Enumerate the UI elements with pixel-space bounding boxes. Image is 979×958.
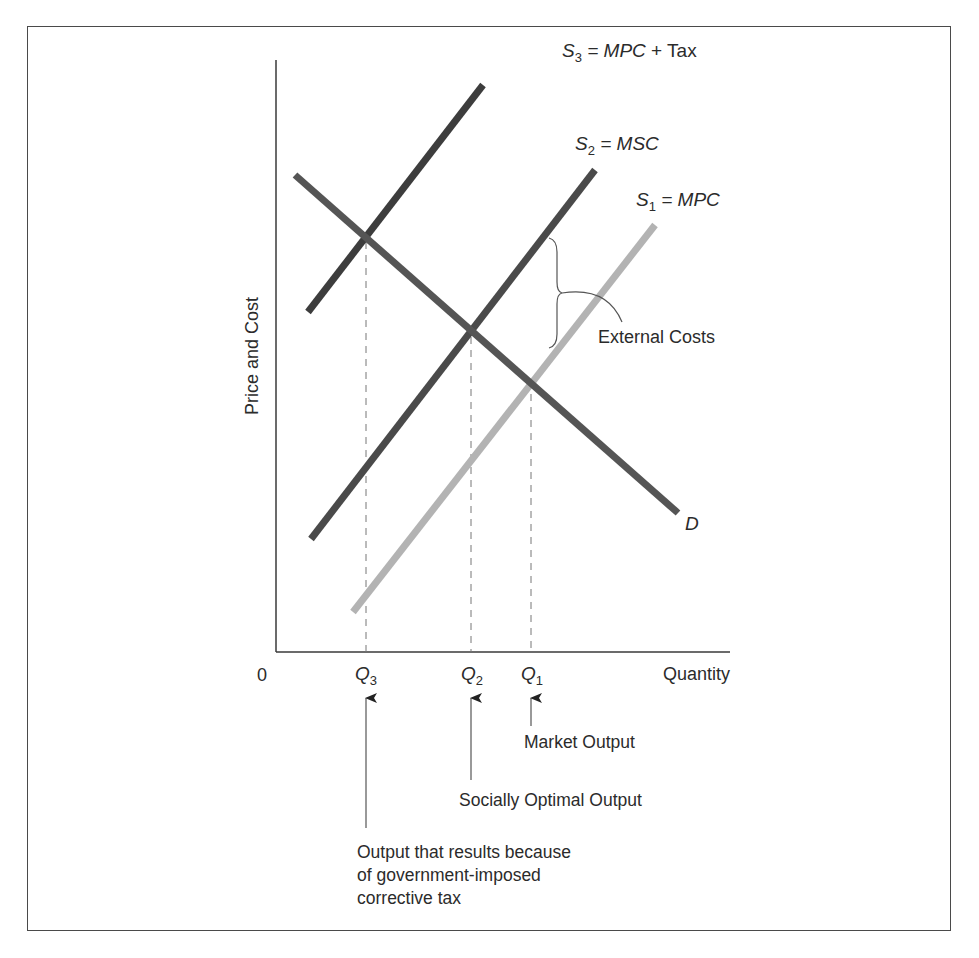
q2-label: Q2 <box>461 663 483 688</box>
s1-label: S1 = MPC <box>636 189 720 214</box>
y-axis-label: Price and Cost <box>242 297 262 415</box>
externality-diagram: S3 = MPC + Tax S2 = MSC S1 = MPC D Exter… <box>0 0 979 958</box>
tax-output-note: Output that results because of governmen… <box>357 841 571 910</box>
origin-label: 0 <box>257 665 267 685</box>
q1-label: Q1 <box>521 663 543 688</box>
socially-optimal-output-note: Socially Optimal Output <box>459 789 642 812</box>
tax-output-line-2: of government-imposed <box>357 864 571 887</box>
tax-output-line-1: Output that results because <box>357 841 571 864</box>
demand-label: D <box>685 513 699 534</box>
external-costs-label: External Costs <box>598 327 715 347</box>
s3-label: S3 = MPC + Tax <box>562 40 697 65</box>
s3-mpc-tax-line <box>308 85 483 312</box>
q3-label: Q3 <box>355 663 377 688</box>
s2-label: S2 = MSC <box>575 133 659 158</box>
external-costs-brace <box>549 238 562 348</box>
market-output-note: Market Output <box>524 731 635 754</box>
x-axis-label: Quantity <box>663 664 730 684</box>
tax-output-line-3: corrective tax <box>357 887 571 910</box>
